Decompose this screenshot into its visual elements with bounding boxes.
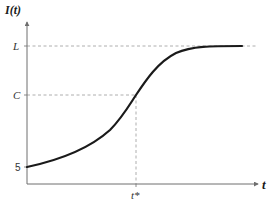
tick-label-5: 5	[15, 162, 21, 173]
logistic-curve	[27, 46, 242, 167]
logistic-growth-chart: I(t) t L C 5 t*	[0, 0, 272, 205]
y-axis-label: I(t)	[4, 3, 21, 17]
tick-label-C: C	[13, 89, 21, 101]
tick-label-tstar: t*	[131, 189, 140, 201]
x-axis-label: t	[262, 177, 266, 192]
tick-label-L: L	[12, 40, 19, 52]
